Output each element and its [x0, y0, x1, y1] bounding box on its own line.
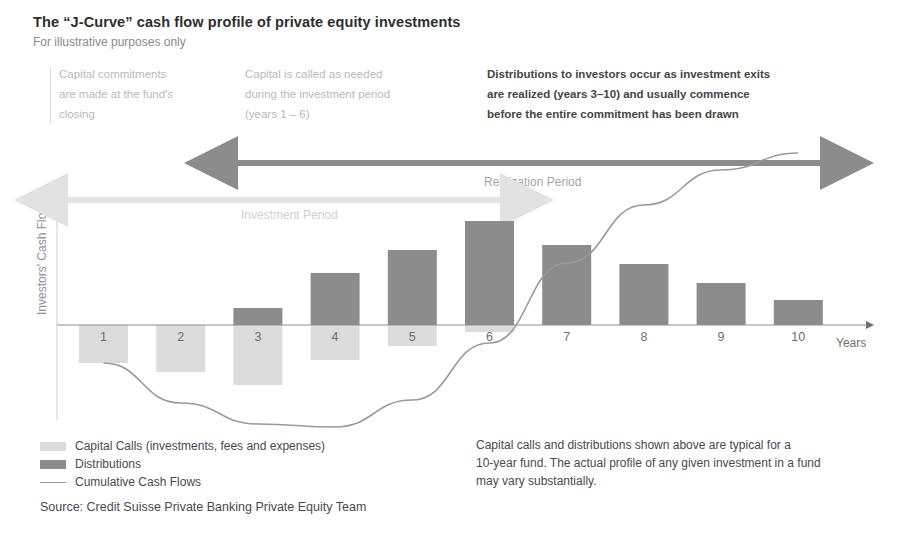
legend-item-capital-calls: Capital Calls (investments, fees and exp…	[40, 437, 325, 455]
chart-legend: Capital Calls (investments, fees and exp…	[40, 437, 325, 491]
x-axis-label: Years	[836, 336, 866, 350]
distribution-bar	[619, 264, 668, 325]
legend-item-distributions: Distributions	[40, 455, 325, 473]
distribution-bar	[697, 283, 746, 325]
y-axis-label: Investors' Cash Flows	[35, 198, 49, 315]
chart-footnote: Capital calls and distributions shown ab…	[476, 436, 856, 490]
investment-period-label: Investment Period	[241, 208, 338, 222]
source-note: Source: Credit Suisse Private Banking Pr…	[40, 500, 366, 514]
distribution-bar	[465, 221, 514, 325]
cumulative-cash-flow-curve	[104, 153, 799, 427]
distribution-bar	[311, 273, 360, 325]
legend-line-cumulative	[40, 482, 66, 483]
footnote-line: 10-year fund. The actual profile of any …	[476, 454, 856, 472]
year-label: 4	[332, 330, 339, 344]
year-label: 5	[409, 330, 416, 344]
footnote-line: may vary substantially.	[476, 472, 856, 490]
legend-swatch-distributions	[40, 460, 66, 469]
distribution-bar	[542, 245, 591, 325]
distribution-bar	[774, 300, 823, 325]
legend-item-cumulative: Cumulative Cash Flows	[40, 473, 325, 491]
distribution-bar	[388, 250, 437, 325]
realization-period-label: Realization Period	[484, 175, 581, 189]
footnote-line: Capital calls and distributions shown ab…	[476, 436, 856, 454]
legend-label-cumulative: Cumulative Cash Flows	[75, 475, 201, 489]
year-tick-labels: 12345678910	[100, 330, 805, 344]
year-label: 7	[563, 330, 570, 344]
year-label: 6	[486, 330, 493, 344]
year-label: 8	[640, 330, 647, 344]
year-label: 3	[254, 330, 261, 344]
year-label: 1	[100, 330, 107, 344]
year-label: 9	[718, 330, 725, 344]
year-label: 2	[177, 330, 184, 344]
legend-label-capital-calls: Capital Calls (investments, fees and exp…	[75, 439, 325, 453]
legend-swatch-capital-calls	[40, 442, 66, 451]
distribution-bars	[233, 221, 822, 325]
distribution-bar	[233, 308, 282, 325]
jcurve-figure: The “J-Curve” cash flow profile of priva…	[0, 0, 909, 536]
year-label: 10	[791, 330, 805, 344]
legend-label-distributions: Distributions	[75, 457, 141, 471]
